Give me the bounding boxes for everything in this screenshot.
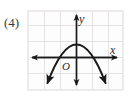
x-axis-label: x — [110, 44, 115, 56]
origin-label: O — [62, 60, 70, 72]
figure-container: (4) — [0, 0, 129, 96]
item-number-label: (4) — [4, 16, 19, 30]
y-axis-label: y — [79, 13, 84, 25]
graph-drawing — [28, 11, 123, 90]
plot-box: y x O — [28, 11, 123, 90]
